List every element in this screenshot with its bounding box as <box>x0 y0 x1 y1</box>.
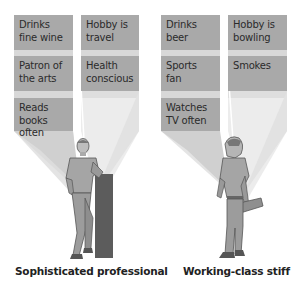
stereotype-caption: Sophisticated professional <box>15 265 168 277</box>
trait-box: Sports fan <box>161 56 220 91</box>
trait-box: Health conscious <box>81 56 139 91</box>
trait-box: Watches TV often <box>161 98 220 131</box>
stereotype-group-working-class: Drinks beer Hobby is bowling Sports fan … <box>147 0 294 292</box>
trait-box: Smokes <box>228 56 287 91</box>
trait-box: Reads books often <box>14 98 73 131</box>
trait-box: Hobby is travel <box>81 15 139 50</box>
trait-box: Drinks beer <box>161 15 220 50</box>
trait-box: Drinks fine wine <box>14 15 73 50</box>
trait-box: Hobby is bowling <box>228 15 287 50</box>
stereotype-group-professional: Drinks fine wine Hobby is travel Patron … <box>0 0 147 292</box>
stereotype-caption: Working-class stiff <box>183 265 290 277</box>
man-leaning-on-pillar-icon <box>55 138 115 263</box>
man-holding-lunchbox-icon <box>205 136 265 264</box>
trait-box: Patron of the arts <box>14 56 73 91</box>
